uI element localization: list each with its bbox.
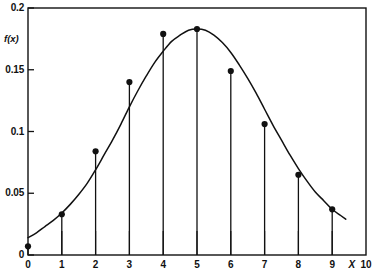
data-point <box>160 31 166 37</box>
y-axis-title: f(x) <box>4 34 19 44</box>
y-axis-ticks <box>28 8 34 255</box>
data-point <box>59 211 65 217</box>
chart-plot-area <box>0 0 374 275</box>
x-tick-label: 7 <box>255 260 275 270</box>
x-tick-label: 3 <box>119 260 139 270</box>
data-point <box>295 172 301 178</box>
x-tick-label: 6 <box>221 260 241 270</box>
x-tick-label: 8 <box>288 260 308 270</box>
chart-container: f(x) X 00.050.10.150.2 012345678910 <box>0 0 374 275</box>
data-point <box>126 79 132 85</box>
stem-lines <box>28 29 332 255</box>
y-tick-label: 0.2 <box>0 3 24 13</box>
x-tick-label: 9 <box>322 260 342 270</box>
data-point <box>93 148 99 154</box>
y-tick-label: 0.15 <box>0 65 24 75</box>
x-tick-label: 1 <box>52 260 72 270</box>
x-tick-label: 4 <box>153 260 173 270</box>
y-tick-label: 0.1 <box>0 127 24 137</box>
data-point-markers <box>25 26 335 250</box>
data-point <box>25 243 31 249</box>
x-tick-label: 0 <box>18 260 38 270</box>
data-point <box>262 121 268 127</box>
y-tick-label: 0.05 <box>0 188 24 198</box>
data-point <box>329 206 335 212</box>
data-point <box>194 26 200 32</box>
x-tick-label: 2 <box>86 260 106 270</box>
y-tick-label: 0 <box>0 250 24 260</box>
x-tick-label: 5 <box>187 260 207 270</box>
x-tick-label: 10 <box>356 260 374 270</box>
data-point <box>228 68 234 74</box>
x-axis-title: X <box>348 260 355 270</box>
